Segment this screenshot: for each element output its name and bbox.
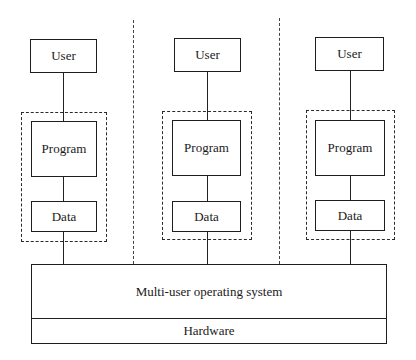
user-box-2: User bbox=[174, 38, 241, 72]
program-box-2: Program bbox=[172, 120, 241, 176]
data-box-2: Data bbox=[172, 201, 241, 232]
column-divider-1 bbox=[133, 20, 134, 264]
os-label: Multi-user operating system bbox=[32, 265, 386, 318]
data-box-1: Data bbox=[31, 201, 97, 232]
hardware-label: Hardware bbox=[32, 318, 386, 343]
column-divider-2 bbox=[279, 18, 280, 264]
os-stack: Multi-user operating system Hardware bbox=[31, 264, 387, 344]
program-box-1: Program bbox=[31, 121, 97, 177]
program-box-3: Program bbox=[315, 120, 385, 176]
user-box-1: User bbox=[30, 39, 97, 73]
data-box-3: Data bbox=[315, 200, 385, 231]
user-box-3: User bbox=[315, 37, 384, 71]
